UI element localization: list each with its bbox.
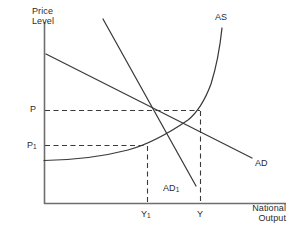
y-tick-label-p1: P1 [27, 140, 37, 151]
x-tick-label-y-text: Y [197, 209, 203, 219]
x-tick-label-y: Y [197, 209, 203, 219]
x-tick-label-y1-subscript: 1 [147, 212, 151, 219]
axes-group [44, 22, 286, 204]
as-curve [44, 28, 222, 161]
as-curve-label-text: AS [215, 12, 227, 22]
ad1-curve-label-subscript: 1 [176, 186, 180, 193]
y-axis-title-line1: Price [32, 6, 53, 16]
ad-as-diagram: PriceLevel NationalOutput AS AD AD1 P P1… [0, 0, 289, 239]
x-axis-title-line2: Output [258, 213, 286, 223]
ad-curve-label: AD [255, 158, 268, 168]
ad1-curve [103, 19, 196, 186]
y-tick-label-p-text: P [30, 104, 36, 114]
x-tick-label-y1: Y1 [141, 209, 151, 220]
y-tick-label-p1-subscript: 1 [33, 143, 37, 150]
y-axis-title: PriceLevel [32, 6, 54, 26]
x-axis-title-line1: National [252, 203, 286, 213]
ad-curve-label-text: AD [255, 158, 268, 168]
ad1-curve-label-text: AD [163, 183, 176, 193]
x-axis-title: NationalOutput [228, 203, 286, 223]
ad1-curve-label: AD1 [163, 183, 179, 194]
as-curve-label: AS [215, 12, 227, 22]
y-tick-label-p: P [30, 104, 36, 114]
y-axis-title-line2: Level [32, 16, 54, 26]
